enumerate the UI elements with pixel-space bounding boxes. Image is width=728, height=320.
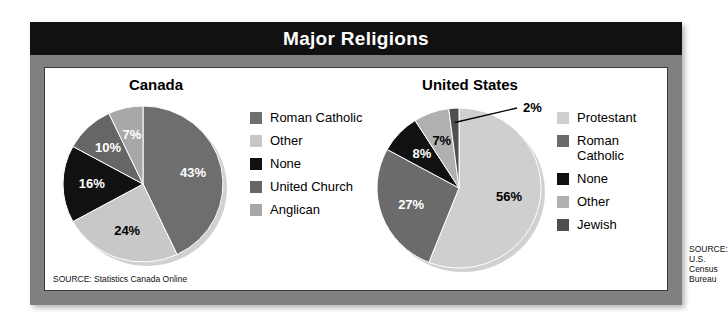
chart-united-states: United States 56%27%8%7%2% ProtestantRom… [363, 68, 669, 290]
legend-item-canada-2: None [250, 156, 363, 171]
legend-item-canada-4: Anglican [250, 202, 363, 217]
legend-label: None [577, 171, 608, 186]
pie-value-label: 27% [398, 197, 424, 212]
legend-label: Jewish [577, 217, 617, 232]
pie-canada-svg: 43%24%16%10%7% [55, 98, 255, 273]
pie-value-label: 8% [413, 146, 432, 161]
legend-item-us-1: Roman Catholic [557, 133, 636, 163]
legend-swatch-icon [250, 181, 262, 193]
pie-canada: 43%24%16%10%7% [55, 98, 255, 273]
legend-item-canada-1: Other [250, 133, 363, 148]
legend-canada: Roman CatholicOtherNoneUnited ChurchAngl… [250, 110, 363, 225]
pie-value-label: 7% [432, 133, 451, 148]
legend-swatch-icon [557, 135, 569, 147]
chart-title-canada: Canada [45, 76, 363, 93]
chart-title-united-states: United States [363, 76, 669, 93]
chart-canada: Canada 43%24%16%10%7% Roman CatholicOthe… [45, 68, 363, 290]
figure-frame: Major Religions Canada 43%24%16%10%7% Ro… [30, 22, 682, 305]
source-canada: SOURCE: Statistics Canada Online [53, 274, 187, 284]
legend-swatch-icon [557, 196, 569, 208]
legend-label: Other [270, 133, 303, 148]
legend-swatch-icon [557, 112, 569, 124]
legend-label: Other [577, 194, 610, 209]
pie-value-label: 43% [180, 165, 206, 180]
pie-value-label: 16% [79, 176, 105, 191]
legend-swatch-icon [250, 135, 262, 147]
legend-label: Roman Catholic [577, 133, 624, 163]
source-united-states: SOURCE: U.S. Census Bureau [689, 244, 728, 284]
legend-label: United Church [270, 179, 353, 194]
pie-value-label: 10% [95, 140, 121, 155]
legend-item-us-3: Other [557, 194, 636, 209]
legend-swatch-icon [250, 204, 262, 216]
legend-swatch-icon [557, 173, 569, 185]
pie-value-label: 56% [496, 189, 522, 204]
legend-label: Roman Catholic [270, 110, 363, 125]
legend-swatch-icon [250, 112, 262, 124]
legend-label: Protestant [577, 110, 636, 125]
page-title: Major Religions [283, 29, 429, 48]
legend-item-us-2: None [557, 171, 636, 186]
pie-united-states: 56%27%8%7%2% [373, 98, 573, 273]
pie-value-label: 24% [114, 223, 140, 238]
legend-item-us-0: Protestant [557, 110, 636, 125]
legend-label: Anglican [270, 202, 320, 217]
pie-united-states-svg: 56%27%8%7%2% [373, 98, 573, 273]
pie-callout-label: 2% [523, 100, 542, 115]
legend-swatch-icon [250, 158, 262, 170]
legend-swatch-icon [557, 219, 569, 231]
legend-item-us-4: Jewish [557, 217, 636, 232]
legend-item-canada-0: Roman Catholic [250, 110, 363, 125]
legend-label: None [270, 156, 301, 171]
charts-panel: Canada 43%24%16%10%7% Roman CatholicOthe… [44, 67, 668, 291]
legend-item-canada-3: United Church [250, 179, 363, 194]
figure-title-bar: Major Religions [30, 22, 682, 55]
pie-value-label: 7% [122, 127, 141, 142]
legend-united-states: ProtestantRoman CatholicNoneOtherJewish [557, 110, 636, 240]
